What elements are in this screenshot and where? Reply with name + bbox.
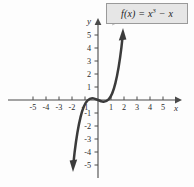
y-ticklabel--3: -3 — [84, 135, 91, 144]
x-ticklabel-5: 5 — [161, 103, 165, 112]
y-axis-label: y — [86, 16, 91, 26]
x-ticklabel-2: 2 — [122, 103, 126, 112]
y-ticklabel-2: 2 — [87, 70, 91, 79]
y-ticklabel--2: -2 — [84, 122, 91, 131]
plot-canvas: -5 -4 -3 -2 -1 1 2 3 4 5 5 4 3 2 1 -1 -2… — [0, 0, 194, 187]
curve-arrowhead-lower-left — [70, 160, 78, 173]
function-graph-figure: -5 -4 -3 -2 -1 1 2 3 4 5 5 4 3 2 1 -1 -2… — [0, 0, 194, 187]
y-ticklabel--5: -5 — [84, 161, 91, 170]
x-axis-label: x — [173, 103, 178, 113]
x-ticklabel--3: -3 — [56, 103, 63, 112]
x-ticklabel-3: 3 — [135, 103, 139, 112]
equation-text: f(x) = x3 − x — [121, 7, 173, 19]
equation-callout-box: f(x) = x3 − x — [106, 3, 188, 24]
y-ticklabel-4: 4 — [87, 44, 91, 53]
y-ticklabel-5: 5 — [87, 31, 91, 40]
y-axis-arrowhead — [95, 18, 102, 25]
x-ticklabel--2: -2 — [69, 103, 76, 112]
y-ticklabel--1: -1 — [84, 109, 91, 118]
equation-minus: − — [156, 9, 168, 20]
y-ticklabel--4: -4 — [84, 148, 91, 157]
equation-equals: = — [136, 9, 148, 20]
equation-last-term: x — [168, 9, 173, 20]
x-ticklabel--5: -5 — [30, 103, 37, 112]
x-ticklabel-1: 1 — [109, 103, 113, 112]
curve-arrowhead-upper-right — [119, 28, 127, 41]
equation-lhs: f(x) — [121, 9, 136, 20]
y-ticklabel-1: 1 — [87, 83, 91, 92]
x-ticklabel--4: -4 — [43, 103, 50, 112]
y-ticklabel-3: 3 — [87, 57, 91, 66]
x-ticklabel-4: 4 — [148, 103, 152, 112]
